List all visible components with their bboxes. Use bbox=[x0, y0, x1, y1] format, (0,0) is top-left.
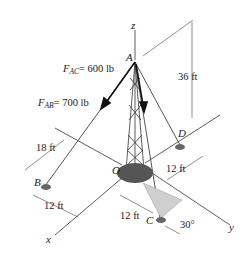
point-A-label: A bbox=[125, 51, 133, 63]
y-axis-back bbox=[55, 128, 122, 165]
B-y-dim-label: 12 ft bbox=[44, 200, 64, 211]
point-B-label: B bbox=[34, 176, 41, 188]
D-y-dim-label: 12 ft bbox=[166, 163, 186, 174]
C-dist-dim-label: 12 ft bbox=[120, 210, 140, 221]
C-angle-label: 30° bbox=[180, 219, 195, 230]
anchor-C bbox=[156, 217, 166, 223]
anchor-D bbox=[175, 144, 185, 150]
base-O bbox=[117, 163, 153, 183]
tower bbox=[126, 62, 144, 170]
z-axis-label: z bbox=[130, 19, 136, 31]
dimension-lines bbox=[25, 140, 203, 234]
tower-diagram: z x y A B C D O FAC= 600 lb FAB= 700 lb … bbox=[0, 0, 243, 254]
height-dimension bbox=[143, 20, 193, 118]
x-axis bbox=[55, 178, 122, 235]
axes bbox=[55, 30, 230, 235]
force-FAB-label: FAB= 700 lb bbox=[37, 97, 89, 110]
B-x-dim-label: 18 ft bbox=[36, 142, 56, 153]
shade-C bbox=[143, 183, 182, 218]
height-dim-label: 36 ft bbox=[178, 71, 198, 82]
point-D-label: D bbox=[177, 127, 186, 139]
anchor-B bbox=[41, 184, 51, 190]
y-axis-label: y bbox=[228, 221, 234, 233]
point-C-label: C bbox=[146, 214, 154, 226]
x-axis-label: x bbox=[45, 233, 51, 245]
point-O-label: O bbox=[112, 164, 120, 176]
D-line bbox=[145, 115, 220, 163]
force-FAC-label: FAC= 600 lb bbox=[62, 63, 114, 76]
